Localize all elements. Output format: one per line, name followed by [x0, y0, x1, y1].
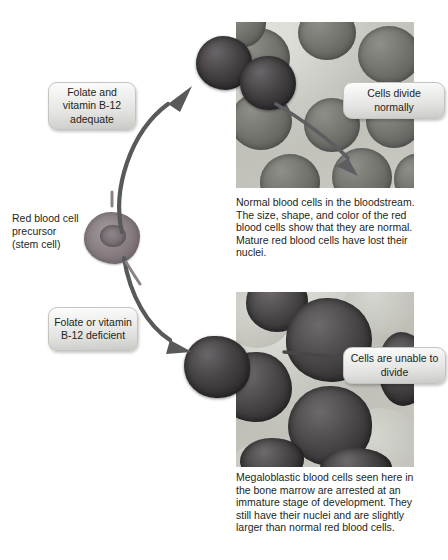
callout-cells-unable-to-divide: Cells are unable to divide — [343, 347, 446, 384]
label-folate-b12-deficient-text: Folate or vitamin B-12 deficient — [53, 316, 133, 343]
label-folate-b12-deficient: Folate or vitamin B-12 deficient — [48, 307, 138, 351]
callout-cells-unable-to-divide-text: Cells are unable to divide — [348, 352, 441, 379]
label-folate-b12-adequate-text: Folate and vitamin B-12 adequate — [53, 86, 131, 127]
straight-leader-line-icon — [284, 352, 346, 358]
label-red-blood-cell-precursor: Red blood cell precursor (stem cell) — [12, 212, 112, 251]
diagram-canvas: Folate and vitamin B-12 adequate Folate … — [0, 0, 448, 560]
callout-cells-divide-normally: Cells divide normally — [343, 82, 445, 119]
label-folate-b12-adequate: Folate and vitamin B-12 adequate — [48, 82, 136, 130]
caption-megaloblastic-blood-cells: Megaloblastic blood cells seen here in t… — [236, 471, 426, 534]
caption-normal-blood-cells: Normal blood cells in the bloodstream. T… — [236, 196, 422, 259]
callout-cells-divide-normally-text: Cells divide normally — [348, 87, 440, 114]
